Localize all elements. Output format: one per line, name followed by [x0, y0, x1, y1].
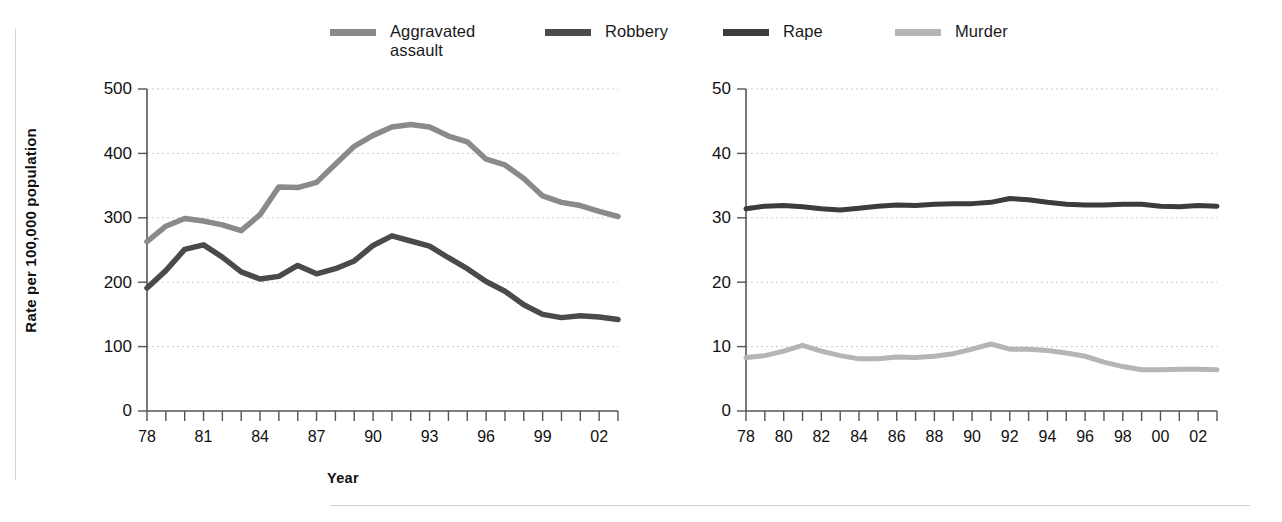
x-tick-label: 92	[1001, 428, 1019, 445]
line-chart-right: 0102030405078808284868890929496980002	[600, 0, 1282, 522]
series-line-rape	[746, 198, 1217, 210]
series-line-robbery	[147, 236, 618, 320]
y-tick-label: 40	[712, 144, 731, 163]
x-tick-label: 90	[364, 428, 382, 445]
series-line-murder	[746, 344, 1217, 370]
x-tick-label: 96	[477, 428, 495, 445]
x-tick-label: 82	[812, 428, 830, 445]
y-tick-label: 400	[104, 144, 132, 163]
y-tick-label: 0	[123, 401, 132, 420]
x-tick-label: 84	[850, 428, 868, 445]
y-tick-label: 200	[104, 273, 132, 292]
x-tick-label: 80	[775, 428, 793, 445]
y-tick-label: 20	[712, 273, 731, 292]
x-tick-label: 86	[888, 428, 906, 445]
x-tick-label: 78	[737, 428, 755, 445]
x-tick-label: 93	[421, 428, 439, 445]
x-tick-label: 02	[1189, 428, 1207, 445]
y-tick-label: 300	[104, 208, 132, 227]
y-tick-label: 30	[712, 208, 731, 227]
series-line-aggravated-assault	[147, 124, 618, 241]
x-tick-label: 94	[1039, 428, 1057, 445]
x-tick-label: 90	[963, 428, 981, 445]
x-tick-label: 98	[1114, 428, 1132, 445]
x-tick-label: 00	[1152, 428, 1170, 445]
line-chart-left: 0100200300400500788184879093969902	[0, 0, 660, 522]
x-tick-label: 78	[138, 428, 156, 445]
x-axis-label-left: Year	[327, 470, 359, 486]
y-tick-label: 100	[104, 337, 132, 356]
x-tick-label: 81	[195, 428, 213, 445]
x-tick-label: 99	[534, 428, 552, 445]
x-tick-label: 84	[251, 428, 269, 445]
x-tick-label: 88	[926, 428, 944, 445]
y-tick-label: 500	[104, 79, 132, 98]
chart-panel-right: Rate per 100,000 population 010203040507…	[600, 0, 1282, 522]
chart-panel-left: Rate per 100,000 population 010020030040…	[0, 0, 660, 522]
x-tick-label: 96	[1076, 428, 1094, 445]
x-tick-label: 87	[308, 428, 326, 445]
y-tick-label: 50	[712, 79, 731, 98]
figure-container: Aggravated assaultRobberyRapeMurder Rate…	[0, 0, 1282, 522]
y-tick-label: 10	[712, 337, 731, 356]
y-tick-label: 0	[722, 401, 731, 420]
